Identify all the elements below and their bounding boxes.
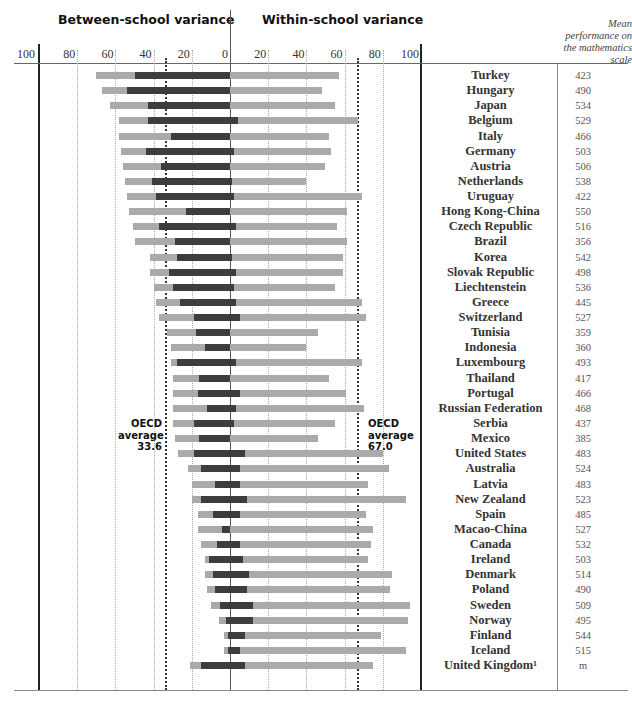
total-variance-bar bbox=[175, 435, 318, 442]
mean-score: 514 bbox=[557, 569, 609, 580]
mean-score: 356 bbox=[557, 236, 609, 247]
bottom-line bbox=[14, 690, 628, 691]
oecd-label-line: average bbox=[118, 430, 162, 442]
explained-variance-bar bbox=[161, 163, 230, 170]
explained-variance-bar bbox=[198, 390, 240, 397]
axis-tick-label: 20 bbox=[254, 47, 266, 62]
explained-variance-bar bbox=[205, 344, 230, 351]
oecd-within-label: OECD average 67.0 bbox=[368, 418, 414, 453]
mean-score: 509 bbox=[557, 600, 609, 611]
explained-variance-bar bbox=[228, 632, 245, 639]
explained-variance-bar bbox=[194, 314, 240, 321]
country-label: Liechtenstein bbox=[424, 280, 557, 295]
explained-variance-bar bbox=[171, 133, 230, 140]
mean-score: 490 bbox=[557, 584, 609, 595]
country-label: Portugal bbox=[424, 386, 557, 401]
explained-variance-bar bbox=[226, 617, 253, 624]
country-label: Germany bbox=[424, 144, 557, 159]
explained-variance-bar bbox=[201, 496, 247, 503]
mean-score: 483 bbox=[557, 479, 609, 490]
oecd-label-line: 33.6 bbox=[118, 441, 162, 453]
country-label: Norway bbox=[424, 613, 557, 628]
mean-score: 515 bbox=[557, 645, 609, 656]
country-label: Serbia bbox=[424, 416, 557, 431]
explained-variance-bar bbox=[152, 178, 232, 185]
mean-score: 423 bbox=[557, 70, 609, 81]
axis-tick-label: 100 bbox=[17, 47, 35, 62]
total-variance-bar bbox=[173, 405, 364, 412]
axis-tick-label: 60 bbox=[101, 47, 113, 62]
explained-variance-bar bbox=[222, 526, 230, 533]
country-label: Greece bbox=[424, 295, 557, 310]
mean-score: 503 bbox=[557, 146, 609, 157]
country-label: Latvia bbox=[424, 477, 557, 492]
total-variance-bar bbox=[224, 647, 405, 654]
explained-variance-bar bbox=[209, 556, 243, 563]
country-label: Iceland bbox=[424, 643, 557, 658]
oecd-label-line: OECD bbox=[368, 418, 414, 430]
total-variance-bar bbox=[135, 238, 347, 245]
axis-tick-label: 100 bbox=[401, 47, 419, 62]
axis-tick-label: 0 bbox=[222, 47, 228, 62]
country-label: Belgium bbox=[424, 113, 557, 128]
country-label: Japan bbox=[424, 98, 557, 113]
mean-score: 524 bbox=[557, 463, 609, 474]
explained-variance-bar bbox=[156, 193, 234, 200]
left-axis-bound bbox=[38, 44, 40, 690]
country-label: Tunisia bbox=[424, 325, 557, 340]
explained-variance-bar bbox=[201, 465, 239, 472]
mean-score: 483 bbox=[557, 448, 609, 459]
explained-variance-bar bbox=[215, 481, 240, 488]
gridline bbox=[268, 50, 269, 690]
within-school-title: Within-school variance bbox=[262, 12, 423, 27]
explained-variance-bar bbox=[148, 102, 230, 109]
gridline bbox=[115, 50, 116, 690]
country-label: Australia bbox=[424, 461, 557, 476]
total-variance-bar bbox=[173, 375, 330, 382]
explained-variance-bar bbox=[196, 329, 230, 336]
mean-score: 422 bbox=[557, 191, 609, 202]
country-label: Czech Republic bbox=[424, 219, 557, 234]
country-label: Korea bbox=[424, 250, 557, 265]
gridline bbox=[77, 50, 78, 690]
mean-score: 466 bbox=[557, 131, 609, 142]
country-label: Russian Federation bbox=[424, 401, 557, 416]
country-label: Macao-China bbox=[424, 522, 557, 537]
explained-variance-bar bbox=[228, 647, 239, 654]
mean-score: 417 bbox=[557, 373, 609, 384]
explained-variance-bar bbox=[199, 435, 230, 442]
oecd-label-line: OECD bbox=[118, 418, 162, 430]
axis-tick-label: 40 bbox=[140, 47, 152, 62]
country-label: United States bbox=[424, 446, 557, 461]
mean-score: 550 bbox=[557, 206, 609, 217]
axis-tick-label: 80 bbox=[63, 47, 75, 62]
explained-variance-bar bbox=[213, 571, 249, 578]
country-label: Austria bbox=[424, 159, 557, 174]
axis-tick-label: 80 bbox=[369, 47, 381, 62]
total-variance-bar bbox=[159, 314, 365, 321]
mean-performance-header: Mean performance on the mathematics scal… bbox=[560, 18, 632, 66]
country-label: Luxembourg bbox=[424, 355, 557, 370]
mean-score: 542 bbox=[557, 252, 609, 263]
country-label: Sweden bbox=[424, 598, 557, 613]
mean-score: 516 bbox=[557, 221, 609, 232]
mean-score: 498 bbox=[557, 267, 609, 278]
gridline bbox=[345, 50, 346, 690]
explained-variance-bar bbox=[207, 405, 236, 412]
country-label: Spain bbox=[424, 507, 557, 522]
explained-variance-bar bbox=[201, 662, 245, 669]
country-label: Poland bbox=[424, 582, 557, 597]
mean-score: 360 bbox=[557, 342, 609, 353]
mean-score: 468 bbox=[557, 403, 609, 414]
mean-score: 385 bbox=[557, 433, 609, 444]
country-label: Turkey bbox=[424, 68, 557, 83]
mean-score: 529 bbox=[557, 115, 609, 126]
mean-score: 538 bbox=[557, 176, 609, 187]
mean-score: 493 bbox=[557, 357, 609, 368]
explained-variance-bar bbox=[186, 208, 230, 215]
mean-score: 532 bbox=[557, 539, 609, 550]
country-label: Uruguay bbox=[424, 189, 557, 204]
country-label: Canada bbox=[424, 537, 557, 552]
explained-variance-bar bbox=[135, 72, 231, 79]
oecd-label-line: 67.0 bbox=[368, 441, 414, 453]
